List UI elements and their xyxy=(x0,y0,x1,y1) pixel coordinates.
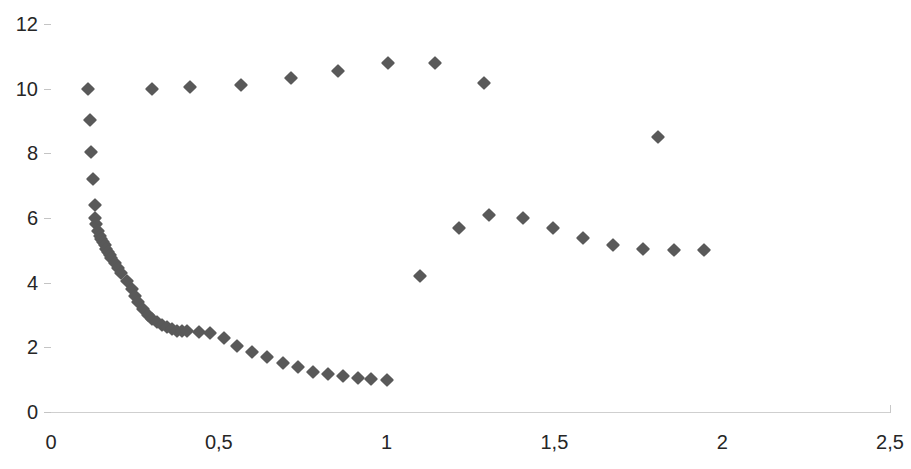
data-point xyxy=(284,71,298,85)
y-tick-mark-8 xyxy=(44,153,51,154)
y-tick-label-10: 10 xyxy=(0,79,38,99)
y-tick-label-4: 4 xyxy=(0,273,38,293)
x-tick-label-1,5: 1,5 xyxy=(540,432,568,452)
data-point xyxy=(245,345,259,359)
x-tick-label-0,5: 0,5 xyxy=(205,432,233,452)
data-point xyxy=(697,243,711,257)
data-point xyxy=(217,331,231,345)
data-point xyxy=(413,268,427,282)
y-tick-mark-12 xyxy=(44,24,51,25)
data-point xyxy=(234,78,248,92)
y-tick-label-8: 8 xyxy=(0,143,38,163)
data-point xyxy=(515,211,529,225)
gridline-y-0 xyxy=(51,412,890,413)
data-point xyxy=(576,231,590,245)
x-tick-label-2: 2 xyxy=(717,432,728,452)
data-point xyxy=(666,243,680,257)
data-point xyxy=(364,372,378,386)
data-point xyxy=(260,350,274,364)
data-point xyxy=(651,130,665,144)
x-tick-label-2,5: 2,5 xyxy=(876,432,904,452)
y-tick-mark-0 xyxy=(44,412,51,413)
y-tick-mark-10 xyxy=(44,89,51,90)
data-point xyxy=(331,64,345,78)
y-tick-label-2: 2 xyxy=(0,337,38,357)
scatter-chart: 024681012 00,511,522,5 xyxy=(0,0,911,469)
plot-area xyxy=(51,24,890,412)
y-tick-label-12: 12 xyxy=(0,14,38,34)
data-point xyxy=(321,367,335,381)
x-tick-label-1: 1 xyxy=(381,432,392,452)
data-point xyxy=(145,82,159,96)
x-tick-label-0: 0 xyxy=(45,432,56,452)
data-point xyxy=(636,242,650,256)
data-point xyxy=(203,326,217,340)
data-point xyxy=(452,221,466,235)
data-point xyxy=(83,113,97,127)
data-point xyxy=(336,369,350,383)
y-tick-mark-6 xyxy=(44,218,51,219)
data-point xyxy=(477,76,491,90)
data-point xyxy=(546,221,560,235)
data-point xyxy=(606,237,620,251)
y-tick-label-6: 6 xyxy=(0,208,38,228)
data-point xyxy=(291,360,305,374)
data-point xyxy=(183,80,197,94)
y-tick-mark-2 xyxy=(44,347,51,348)
data-point xyxy=(275,356,289,370)
x-axis-endcap xyxy=(890,405,891,413)
data-point xyxy=(380,373,394,387)
data-point xyxy=(306,365,320,379)
data-point xyxy=(84,145,98,159)
data-point xyxy=(482,208,496,222)
y-tick-mark-4 xyxy=(44,283,51,284)
data-point xyxy=(428,56,442,70)
data-point xyxy=(86,172,100,186)
data-point xyxy=(230,339,244,353)
data-point xyxy=(81,82,95,96)
data-point xyxy=(381,56,395,70)
y-tick-label-0: 0 xyxy=(0,402,38,422)
